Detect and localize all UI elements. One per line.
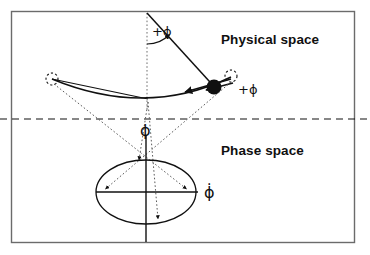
- dashed-circle-icon-right: [225, 70, 237, 82]
- diagram-canvas: Physical space Phase space +ϕ +ϕ ϕ ϕ̇: [0, 0, 370, 255]
- physical-space-label: Physical space: [221, 32, 319, 47]
- bob-angle-label: +ϕ: [238, 82, 257, 97]
- phase-axis-vertical-label: ϕ: [140, 121, 151, 140]
- phase-axis-horizontal-label: ϕ̇: [204, 183, 215, 202]
- swing-arc: [52, 77, 231, 98]
- pivot-angle-label: +ϕ: [152, 24, 171, 39]
- phase-space-label: Phase space: [221, 143, 304, 158]
- rod-to-ghost-left: [52, 79, 148, 99]
- projection-right-to-ellipse-left: [106, 82, 232, 189]
